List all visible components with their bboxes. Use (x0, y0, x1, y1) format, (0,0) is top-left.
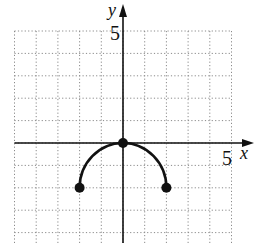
curve-point (161, 183, 171, 193)
y-axis-arrow-icon (119, 4, 127, 17)
y-axis-label: y (106, 0, 116, 20)
curve-point (75, 183, 85, 193)
x-tick-5: 5 (222, 147, 232, 169)
coordinate-plane: x y 5 5 (0, 0, 259, 243)
y-tick-5: 5 (110, 22, 120, 44)
x-axis-label: x (239, 143, 248, 163)
curve-point (118, 138, 128, 148)
